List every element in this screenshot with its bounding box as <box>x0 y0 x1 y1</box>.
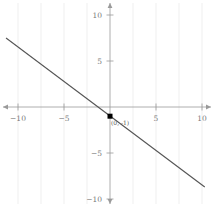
y-intercept-label: (0, -1) <box>111 119 129 126</box>
x-axis-tick-label: −5 <box>58 114 69 123</box>
y-axis-tick-label: 5 <box>97 57 102 66</box>
y-intercept-marker <box>108 114 113 119</box>
y-axis-tick-label: −10 <box>86 195 102 204</box>
x-axis-tick-label: 5 <box>154 114 159 123</box>
coordinate-plane-graph: −10−5510105−5−10 (0, -1) <box>0 0 214 207</box>
plot-background <box>0 0 214 207</box>
x-axis-tick-label: 10 <box>197 114 207 123</box>
graph-canvas: −10−5510105−5−10 (0, -1) <box>0 0 214 207</box>
y-axis-tick-label: −5 <box>91 149 102 158</box>
x-axis-tick-label: −10 <box>10 114 26 123</box>
y-axis-tick-label: 10 <box>92 11 102 20</box>
